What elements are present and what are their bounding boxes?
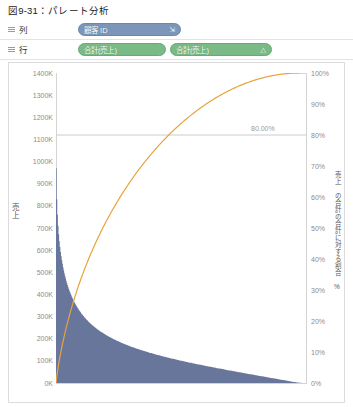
- y-axis-tick: 1300K: [13, 92, 53, 99]
- y-axis-tick: 1100K: [13, 136, 53, 143]
- pill-sum-sales-1[interactable]: 合計(売上): [78, 43, 166, 56]
- y-axis-tick: 200K: [13, 335, 53, 342]
- rows-shelf-label-text: 行: [19, 43, 28, 55]
- y-axis-tick: 700K: [13, 225, 53, 232]
- columns-shelf-label: 列: [0, 23, 78, 35]
- y2-axis-tick: 60%: [311, 194, 325, 201]
- grid-icon: [8, 46, 15, 53]
- y2-axis-ticks: 0%10%20%30%40%50%60%70%80%90%100%: [311, 63, 341, 404]
- pill-customer-id-label: 顧客 ID: [84, 24, 165, 35]
- y2-axis-tick: 50%: [311, 225, 325, 232]
- pill-sum-sales-2[interactable]: 合計(売上) △: [170, 43, 272, 56]
- pill-sum-sales-1-label: 合計(売上): [84, 44, 160, 55]
- bar-series: [56, 168, 306, 383]
- y2-axis-tick: 70%: [311, 163, 325, 170]
- y-axis-tick: 800K: [13, 202, 53, 209]
- shelf-area: 列 顧客 ID ⇲ 行 合計(売上) 合計(売上) △: [0, 19, 353, 60]
- y2-axis-tick: 0%: [311, 380, 321, 387]
- rows-shelf-label: 行: [0, 43, 78, 55]
- y-axis-tick: 1000K: [13, 158, 53, 165]
- y-axis-tick: 600K: [13, 247, 53, 254]
- y-axis-tick: 1400K: [13, 70, 53, 77]
- reference-line-label: 80.00%: [251, 125, 275, 132]
- y-axis-tick: 0K: [13, 380, 53, 387]
- sort-descending-icon[interactable]: ⇲: [169, 26, 175, 33]
- y2-axis-tick: 40%: [311, 256, 325, 263]
- figure-caption: 図9-31：パレート分析: [8, 3, 109, 17]
- columns-shelf[interactable]: 列 顧客 ID ⇲: [0, 19, 353, 40]
- y2-axis-tick: 100%: [311, 70, 329, 77]
- plot-axis-line-bottom: [56, 383, 307, 384]
- y2-axis-tick: 20%: [311, 318, 325, 325]
- pareto-chart-svg: [56, 73, 306, 383]
- y2-axis-tick: 80%: [311, 132, 325, 139]
- plot-axis-line-right: [306, 73, 307, 383]
- y-axis-tick: 400K: [13, 291, 53, 298]
- plot-area[interactable]: [56, 73, 306, 383]
- y-axis-tick: 1200K: [13, 114, 53, 121]
- grid-icon: [8, 26, 15, 33]
- y-axis-tick: 300K: [13, 313, 53, 320]
- pill-sum-sales-2-label: 合計(売上): [176, 44, 257, 55]
- y2-axis-tick: 30%: [311, 287, 325, 294]
- y-axis-tick: 500K: [13, 269, 53, 276]
- chart-panel[interactable]: 売上 売上 の合計の合計に対する割合 % 0K100K200K300K400K5…: [8, 62, 345, 403]
- pill-customer-id[interactable]: 顧客 ID ⇲: [78, 23, 181, 36]
- y2-axis-tick: 10%: [311, 349, 325, 356]
- columns-shelf-label-text: 列: [19, 23, 28, 35]
- table-calculation-icon[interactable]: △: [261, 46, 266, 53]
- y2-axis-tick: 90%: [311, 101, 325, 108]
- rows-shelf[interactable]: 行 合計(売上) 合計(売上) △: [0, 39, 353, 60]
- y-axis-tick: 900K: [13, 180, 53, 187]
- y-axis-ticks: 0K100K200K300K400K500K600K700K800K900K10…: [9, 63, 53, 404]
- bar-shape: [56, 168, 306, 383]
- y-axis-tick: 100K: [13, 357, 53, 364]
